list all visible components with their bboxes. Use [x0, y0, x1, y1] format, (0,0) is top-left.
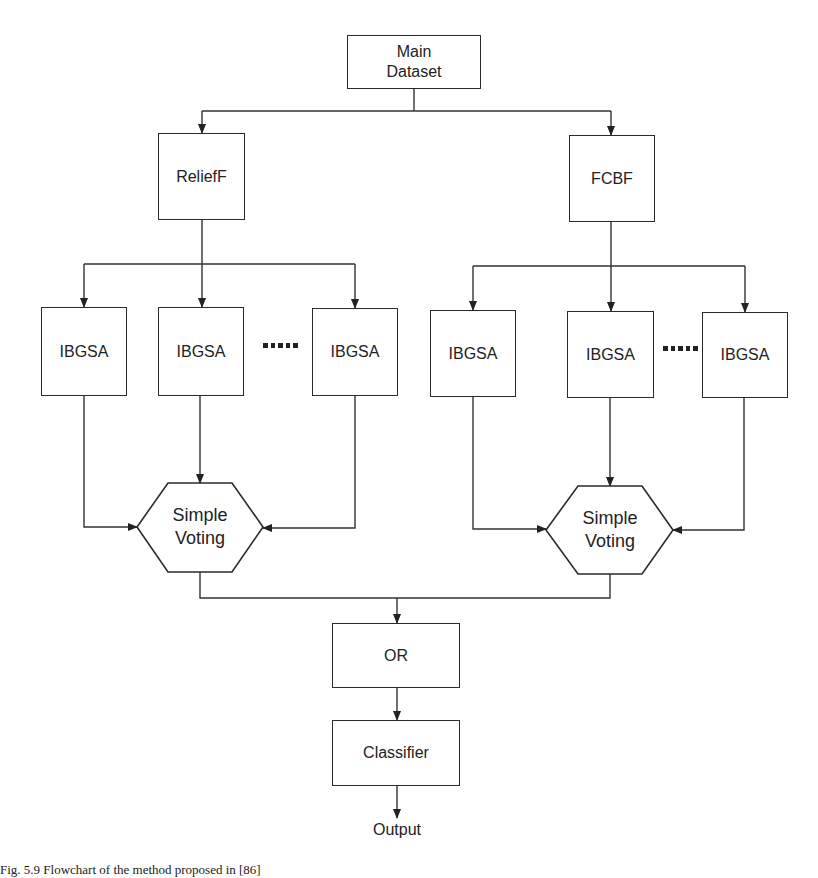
left-voting-line1: Simple [150, 504, 250, 527]
ibgsa-right-2-node: IBGSA [567, 311, 654, 398]
main-dataset-label-line2: Dataset [386, 62, 441, 82]
ibgsa-right-3-node: IBGSA [702, 312, 788, 398]
ibgsa-left-3-node: IBGSA [312, 308, 398, 396]
figure-caption: Fig. 5.9 Flowchart of the method propose… [0, 862, 261, 878]
right-voting-line2: Voting [560, 530, 660, 553]
classifier-label: Classifier [363, 743, 429, 763]
right-ellipsis [663, 346, 698, 351]
ibgsa-left-2-node: IBGSA [158, 307, 244, 396]
relieff-node: ReliefF [158, 133, 245, 220]
left-voting-label: Simple Voting [150, 504, 250, 550]
fcbf-label: FCBF [591, 169, 633, 189]
ibgsa-label: IBGSA [586, 345, 635, 365]
ibgsa-label: IBGSA [449, 344, 498, 364]
left-ellipsis [263, 343, 298, 348]
or-label: OR [384, 646, 408, 666]
output-label: Output [347, 820, 447, 840]
ibgsa-label: IBGSA [331, 342, 380, 362]
or-node: OR [332, 623, 460, 688]
relieff-label: ReliefF [176, 167, 227, 187]
right-voting-line1: Simple [560, 507, 660, 530]
ibgsa-label: IBGSA [60, 342, 109, 362]
main-dataset-label-line1: Main [397, 42, 432, 62]
ibgsa-left-1-node: IBGSA [41, 307, 127, 396]
classifier-node: Classifier [332, 720, 460, 786]
main-dataset-node: Main Dataset [347, 35, 481, 89]
ibgsa-label: IBGSA [721, 345, 770, 365]
ibgsa-right-1-node: IBGSA [430, 310, 516, 397]
right-voting-label: Simple Voting [560, 507, 660, 553]
fcbf-node: FCBF [569, 135, 655, 222]
ibgsa-label: IBGSA [177, 342, 226, 362]
left-voting-line2: Voting [150, 527, 250, 550]
